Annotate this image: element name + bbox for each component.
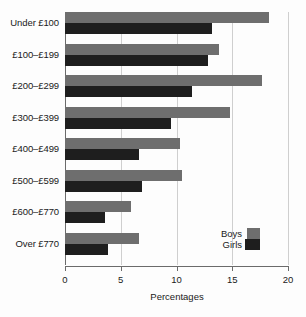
- x-tick-label: 20: [283, 274, 294, 285]
- bar-girls: [65, 212, 105, 223]
- bar-group: [65, 107, 288, 129]
- x-tick-label: 5: [118, 274, 123, 285]
- bar-group: [65, 233, 288, 255]
- x-tick-5: [121, 266, 122, 271]
- bar-boys: [65, 138, 180, 149]
- bar-group: [65, 170, 288, 192]
- category-label: £200–£299: [0, 80, 59, 91]
- bar-group: [65, 138, 288, 160]
- category-label: £300–£399: [0, 112, 59, 123]
- bar-boys: [65, 12, 269, 23]
- x-tick-0: [65, 266, 66, 271]
- x-tick-20: [288, 266, 289, 271]
- x-tick-label: 10: [171, 274, 182, 285]
- bar-girls: [65, 55, 208, 66]
- category-label: £500–£599: [0, 175, 59, 186]
- category-label: £400–£499: [0, 143, 59, 154]
- bar-girls: [65, 181, 142, 192]
- bar-group: [65, 201, 288, 223]
- bar-boys: [65, 75, 262, 86]
- bar-boys: [65, 107, 230, 118]
- category-label: £100–£199: [0, 49, 59, 60]
- category-label: Under £100: [0, 17, 59, 28]
- x-axis-title: Percentages: [0, 291, 306, 302]
- category-label: Over £770: [0, 238, 59, 249]
- x-tick-label: 15: [227, 274, 238, 285]
- bar-girls: [65, 23, 212, 34]
- bar-chart: Percentages Boys Girls Under £100£100–£1…: [0, 0, 306, 317]
- gridline-20: [288, 12, 289, 265]
- bar-group: [65, 44, 288, 66]
- x-tick-label: 0: [62, 274, 67, 285]
- bar-group: [65, 12, 288, 34]
- bar-girls: [65, 244, 108, 255]
- bar-boys: [65, 44, 219, 55]
- bar-girls: [65, 86, 192, 97]
- bar-boys: [65, 201, 131, 212]
- bar-girls: [65, 149, 139, 160]
- x-tick-10: [177, 266, 178, 271]
- bar-girls: [65, 118, 171, 129]
- bar-boys: [65, 233, 139, 244]
- x-tick-15: [232, 266, 233, 271]
- category-label: £600–£770: [0, 206, 59, 217]
- bar-boys: [65, 170, 182, 181]
- bar-group: [65, 75, 288, 97]
